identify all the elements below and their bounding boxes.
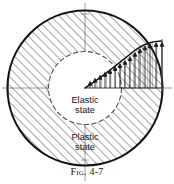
figure-caption: Fig. 4-7 (0, 166, 174, 177)
elastic-state-label-line2: state (75, 105, 95, 115)
figure-4-7: Elastic state Plastic state Fig. 4-7 (0, 0, 174, 184)
thick-cylinder-elastic-plastic-diagram: Elastic state Plastic state (0, 0, 174, 184)
elastic-state-label-line1: Elastic (71, 95, 98, 105)
figure-caption-number: 4-7 (90, 166, 104, 177)
plastic-state-label-line2: state (75, 142, 95, 152)
figure-caption-prefix: Fig. (71, 166, 87, 177)
plastic-state-label-line1: Plastic (71, 132, 98, 142)
